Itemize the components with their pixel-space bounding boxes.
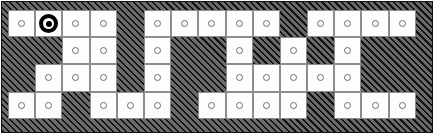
grid-cell-r3-c4[interactable] bbox=[90, 64, 117, 91]
grid-cell-r2-c9[interactable] bbox=[226, 37, 253, 64]
free-node-icon bbox=[236, 102, 243, 109]
grid-cell-r2-c1 bbox=[8, 37, 35, 64]
grid-cell-r3-c8 bbox=[198, 64, 225, 91]
grid-cell-r4-c15[interactable] bbox=[389, 92, 416, 119]
grid-cell-r2-c7 bbox=[171, 37, 198, 64]
free-node-icon bbox=[100, 20, 107, 27]
grid-cell-r3-c9[interactable] bbox=[226, 64, 253, 91]
free-node-icon bbox=[236, 47, 243, 54]
free-node-icon bbox=[100, 74, 107, 81]
grid-cell-r3-c13[interactable] bbox=[334, 64, 361, 91]
grid-cell-r1-c5 bbox=[117, 10, 144, 37]
free-node-icon bbox=[344, 102, 351, 109]
grid-cell-r4-c7 bbox=[171, 92, 198, 119]
free-node-icon bbox=[372, 20, 379, 27]
grid-cell-r2-c4[interactable] bbox=[90, 37, 117, 64]
free-node-icon bbox=[236, 20, 243, 27]
grid-cell-r1-c11 bbox=[280, 10, 307, 37]
grid-cell-r4-c2[interactable] bbox=[35, 92, 62, 119]
free-node-icon bbox=[344, 20, 351, 27]
grid-cell-r3-c6[interactable] bbox=[144, 64, 171, 91]
grid-cell-r1-c9[interactable] bbox=[226, 10, 253, 37]
grid-cell-r1-c12[interactable] bbox=[307, 10, 334, 37]
grid-cell-r2-c10 bbox=[253, 37, 280, 64]
grid-cell-r4-c5[interactable] bbox=[117, 92, 144, 119]
free-node-icon bbox=[127, 102, 134, 109]
grid-cell-r4-c4[interactable] bbox=[90, 92, 117, 119]
grid-cell-r4-c14[interactable] bbox=[361, 92, 388, 119]
grid-cell-r4-c9[interactable] bbox=[226, 92, 253, 119]
grid-cell-r2-c14 bbox=[361, 37, 388, 64]
grid-cell-r2-c15 bbox=[389, 37, 416, 64]
free-node-icon bbox=[100, 102, 107, 109]
free-node-icon bbox=[208, 20, 215, 27]
grid-cell-r1-c6[interactable] bbox=[144, 10, 171, 37]
grid-cell-r4-c6[interactable] bbox=[144, 92, 171, 119]
free-node-icon bbox=[154, 102, 161, 109]
grid-cell-r2-c2 bbox=[35, 37, 62, 64]
grid-cell-r4-c1[interactable] bbox=[8, 92, 35, 119]
free-node-icon bbox=[263, 102, 270, 109]
grid-cell-r1-c14[interactable] bbox=[361, 10, 388, 37]
grid-figure bbox=[0, 0, 434, 134]
grid-cell-r2-c5 bbox=[117, 37, 144, 64]
grid-cell-r2-c12 bbox=[307, 37, 334, 64]
free-node-icon bbox=[399, 102, 406, 109]
grid-cell-r3-c7 bbox=[171, 64, 198, 91]
grid-cell-r1-c10[interactable] bbox=[253, 10, 280, 37]
grid-cell-r4-c8[interactable] bbox=[198, 92, 225, 119]
free-node-icon bbox=[72, 20, 79, 27]
free-node-icon bbox=[18, 20, 25, 27]
free-node-icon bbox=[154, 74, 161, 81]
grid-cell-r1-c2[interactable] bbox=[35, 10, 62, 37]
grid-cell-r1-c13[interactable] bbox=[334, 10, 361, 37]
grid-cell-r4-c10[interactable] bbox=[253, 92, 280, 119]
grid-cell-r3-c11[interactable] bbox=[280, 64, 307, 91]
grid-cell-r3-c1 bbox=[8, 64, 35, 91]
grid-cell-r1-c4[interactable] bbox=[90, 10, 117, 37]
goal-node-icon bbox=[39, 14, 58, 33]
grid-cell-r2-c8 bbox=[198, 37, 225, 64]
grid-cell-r2-c13[interactable] bbox=[334, 37, 361, 64]
free-node-icon bbox=[317, 74, 324, 81]
free-node-icon bbox=[290, 102, 297, 109]
free-node-icon bbox=[100, 47, 107, 54]
free-node-icon bbox=[45, 102, 52, 109]
grid-cell-r4-c13[interactable] bbox=[334, 92, 361, 119]
free-node-icon bbox=[317, 20, 324, 27]
free-node-icon bbox=[154, 20, 161, 27]
free-node-icon bbox=[372, 102, 379, 109]
free-node-icon bbox=[344, 74, 351, 81]
grid-cell-r3-c10[interactable] bbox=[253, 64, 280, 91]
grid-cell-r2-c6[interactable] bbox=[144, 37, 171, 64]
free-node-icon bbox=[45, 74, 52, 81]
grid-cell-r2-c11[interactable] bbox=[280, 37, 307, 64]
grid-cell-r3-c3[interactable] bbox=[62, 64, 89, 91]
grid-cell-r1-c1[interactable] bbox=[8, 10, 35, 37]
free-node-icon bbox=[290, 47, 297, 54]
free-node-icon bbox=[18, 102, 25, 109]
grid-cell-r1-c3[interactable] bbox=[62, 10, 89, 37]
free-node-icon bbox=[263, 20, 270, 27]
grid-cell-r3-c12[interactable] bbox=[307, 64, 334, 91]
grid-cell-r3-c2[interactable] bbox=[35, 64, 62, 91]
free-node-icon bbox=[181, 20, 188, 27]
free-node-icon bbox=[344, 47, 351, 54]
grid-cell-r1-c8[interactable] bbox=[198, 10, 225, 37]
grid-cell-r3-c15 bbox=[389, 64, 416, 91]
grid-cell-r4-c12 bbox=[307, 92, 334, 119]
free-node-icon bbox=[208, 102, 215, 109]
free-node-icon bbox=[290, 74, 297, 81]
free-node-icon bbox=[263, 74, 270, 81]
free-node-icon bbox=[72, 74, 79, 81]
grid-cell-r1-c15[interactable] bbox=[389, 10, 416, 37]
grid-cell-area bbox=[8, 10, 426, 123]
grid-cell-r4-c11[interactable] bbox=[280, 92, 307, 119]
grid-cell-r3-c14 bbox=[361, 64, 388, 91]
free-node-icon bbox=[154, 47, 161, 54]
free-node-icon bbox=[72, 47, 79, 54]
grid-cell-r3-c5 bbox=[117, 64, 144, 91]
grid-cell-r2-c3[interactable] bbox=[62, 37, 89, 64]
grid-cell-r4-c3 bbox=[62, 92, 89, 119]
grid-cell-r1-c7[interactable] bbox=[171, 10, 198, 37]
